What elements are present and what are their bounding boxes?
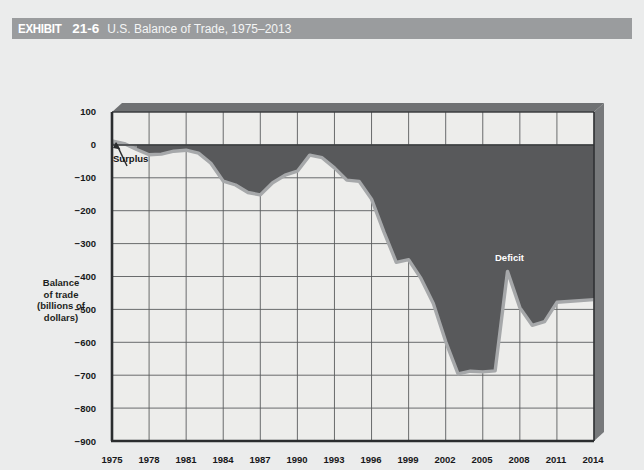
plot-3d-right-face [594, 103, 604, 441]
y-tick-label-n200: −200 [50, 205, 96, 216]
chart-plot-container: Balance of trade (billions of dollars) 1… [0, 45, 644, 470]
exhibit-label: EXHIBIT [18, 22, 61, 36]
y-tick-label-n700: −700 [50, 370, 96, 381]
y-tick-label-n900: −900 [50, 436, 96, 447]
plot-3d-top-face [112, 103, 604, 112]
y-axis-title: Balance of trade (billions of dollars) [22, 277, 100, 323]
x-tick-label-2014: 2014 [571, 454, 615, 465]
y-tick-label-n400: −400 [50, 271, 96, 282]
y-tick-label-0: 0 [50, 139, 96, 150]
exhibit-title: U.S. Balance of Trade, 1975–2013 [107, 22, 291, 36]
exhibit-figure: EXHIBIT 21-6 U.S. Balance of Trade, 1975… [0, 0, 644, 470]
deficit-annotation-label: Deficit [495, 252, 524, 263]
y-tick-label-n100: −100 [50, 172, 96, 183]
exhibit-number: 21-6 [72, 21, 99, 36]
surplus-annotation-label: Surplus [113, 153, 148, 164]
y-tick-label-n500: −500 [50, 304, 96, 315]
y-axis-title-line-2: of trade [22, 289, 100, 301]
y-tick-label-n600: −600 [50, 337, 96, 348]
chart-svg [0, 45, 644, 470]
y-tick-label-100: 100 [50, 106, 96, 117]
y-tick-label-n300: −300 [50, 238, 96, 249]
exhibit-banner: EXHIBIT 21-6 U.S. Balance of Trade, 1975… [12, 18, 632, 39]
y-tick-label-n800: −800 [50, 403, 96, 414]
